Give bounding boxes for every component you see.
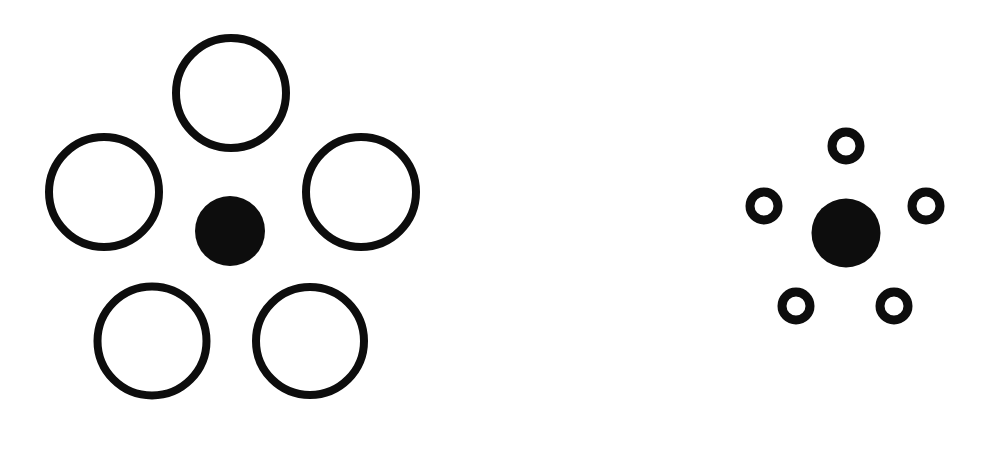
left-panel-target-center-disc <box>195 196 265 266</box>
ebbinghaus-illusion-figure: Ebbinghaus (Titchener) size illusion <box>0 0 981 451</box>
illusion-canvas <box>0 0 981 451</box>
right-panel-target-center-disc <box>812 199 881 268</box>
